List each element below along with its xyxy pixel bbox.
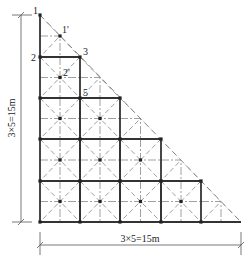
node-label-2: 2: [31, 52, 36, 63]
vertical-dimension-text: 3×5=15m: [6, 98, 17, 137]
node-label-5: 5: [83, 87, 88, 98]
node-label-2-prime: 2': [63, 67, 70, 78]
node-label-1: 1: [33, 5, 38, 16]
horizontal-dimension-text: 3×5=15m: [120, 233, 159, 244]
structure-diagram: 1 1' 2 3 2' 5 3×5=15m 3×5=15m: [0, 0, 252, 265]
node-label-1-prime: 1': [62, 24, 69, 35]
node-label-3: 3: [83, 46, 88, 57]
